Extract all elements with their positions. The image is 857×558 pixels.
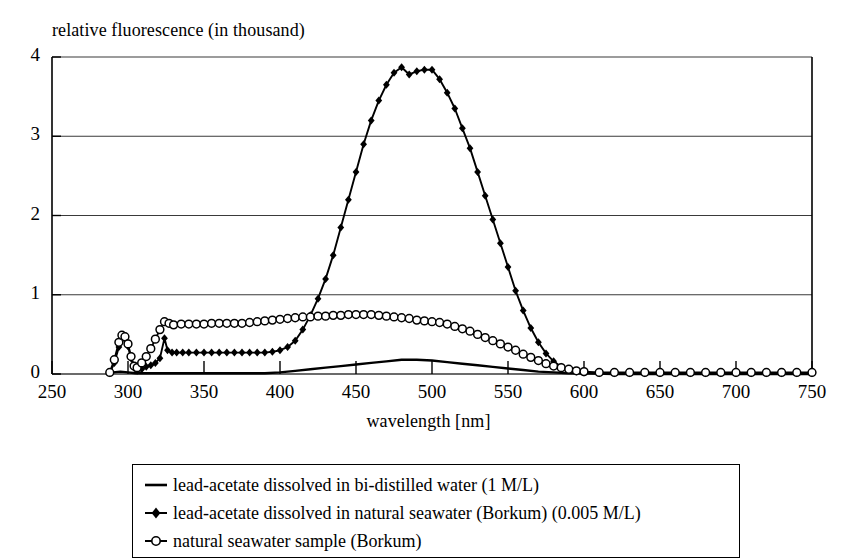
- legend-item-1[interactable]: lead-acetate dissolved in natural seawat…: [133, 499, 739, 527]
- legend-key-diamond-icon: [143, 504, 169, 522]
- x-tick-label: 450: [326, 381, 386, 403]
- fluorescence-spectrum-figure: relative fluorescence (in thousand) wave…: [0, 0, 857, 558]
- y-tick-label: 3: [8, 123, 40, 145]
- x-tick-label: 250: [22, 381, 82, 403]
- legend: lead-acetate dissolved in bi-distilled w…: [132, 464, 740, 558]
- x-tick-label: 650: [630, 381, 690, 403]
- y-tick-label: 2: [8, 203, 40, 225]
- legend-key-circle-icon: [143, 532, 169, 550]
- y-tick-label: 1: [8, 282, 40, 304]
- x-tick-label: 550: [478, 381, 538, 403]
- x-tick-label: 400: [250, 381, 310, 403]
- x-tick-label: 600: [554, 381, 614, 403]
- x-tick-label: 350: [174, 381, 234, 403]
- series-2: [106, 311, 816, 377]
- legend-key-line-icon: [143, 476, 169, 494]
- y-tick-label: 4: [8, 44, 40, 66]
- legend-label-0: lead-acetate dissolved in bi-distilled w…: [173, 476, 539, 494]
- x-tick-label: 750: [782, 381, 842, 403]
- legend-item-0[interactable]: lead-acetate dissolved in bi-distilled w…: [133, 471, 739, 499]
- legend-item-2[interactable]: natural seawater sample (Borkum): [133, 527, 739, 555]
- x-tick-label: 700: [706, 381, 766, 403]
- x-axis-title: wavelength [nm]: [0, 411, 857, 432]
- legend-label-1: lead-acetate dissolved in natural seawat…: [173, 504, 641, 522]
- x-tick-label: 500: [402, 381, 462, 403]
- y-tick-label: 0: [8, 361, 40, 383]
- x-tick-label: 300: [98, 381, 158, 403]
- legend-label-2: natural seawater sample (Borkum): [173, 532, 421, 550]
